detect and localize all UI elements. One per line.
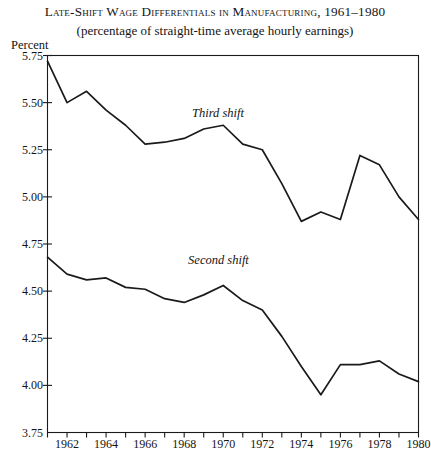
x-tick-label: 1974 <box>289 437 313 452</box>
third-shift-label: Third shift <box>192 106 244 121</box>
series-line-third-shift <box>48 61 419 221</box>
y-tick-label: 5.50 <box>22 95 43 110</box>
x-tick-label: 1976 <box>328 437 352 452</box>
y-tick-label: 4.25 <box>22 331 43 346</box>
y-tick-label: 4.75 <box>22 237 43 252</box>
x-tick-label: 1964 <box>94 437 118 452</box>
x-tick-label: 1980 <box>407 437 431 452</box>
y-tick-label: 3.75 <box>22 425 43 440</box>
chart-subtitle: (percentage of straight-time average hou… <box>0 23 430 39</box>
x-tick-label: 1962 <box>55 437 79 452</box>
y-tick-label: 4.00 <box>22 378 43 393</box>
x-tick-label: 1968 <box>172 437 196 452</box>
series-line-second-shift <box>48 257 419 395</box>
x-tick-label: 1972 <box>250 437 274 452</box>
second-shift-label: Second shift <box>188 253 249 268</box>
chart-title: Late-Shift Wage Differentials in Manufac… <box>0 4 430 20</box>
x-tick-label: 1966 <box>133 437 157 452</box>
x-tick-label: 1970 <box>211 437 235 452</box>
y-tick-label: 5.25 <box>22 142 43 157</box>
y-tick-label: 5.75 <box>22 48 43 63</box>
y-tick-label: 5.00 <box>22 189 43 204</box>
x-tick-label: 1978 <box>367 437 391 452</box>
y-axis-tick-labels: 3.754.004.254.504.755.005.255.505.75 <box>0 0 43 465</box>
y-tick-label: 4.50 <box>22 284 43 299</box>
